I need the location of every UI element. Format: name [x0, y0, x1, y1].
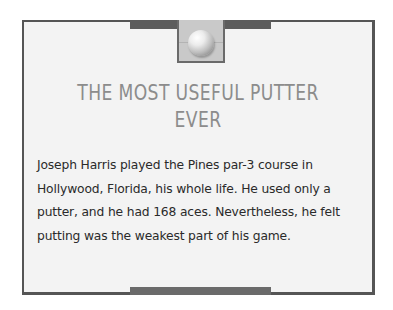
body-line: Joseph Harris played the Pines par-3 cou… — [37, 158, 313, 172]
trivia-card: THE MOST USEFUL PUTTER EVER Joseph Harri… — [22, 20, 375, 295]
card-body: Joseph Harris played the Pines par-3 cou… — [37, 154, 367, 248]
title-line-2: EVER — [62, 106, 333, 133]
body-line: putter, and he had 168 aces. Nevertheles… — [37, 205, 340, 219]
card-title: THE MOST USEFUL PUTTER EVER — [62, 79, 333, 133]
body-line: putting was the weakest part of his game… — [37, 229, 291, 243]
title-line-1: THE MOST USEFUL PUTTER — [62, 79, 333, 106]
golf-ball-icon — [188, 30, 214, 56]
body-line: Hollywood, Florida, his whole life. He u… — [37, 182, 331, 196]
emblem-box — [177, 20, 225, 63]
bottom-decorative-bar — [130, 287, 271, 295]
